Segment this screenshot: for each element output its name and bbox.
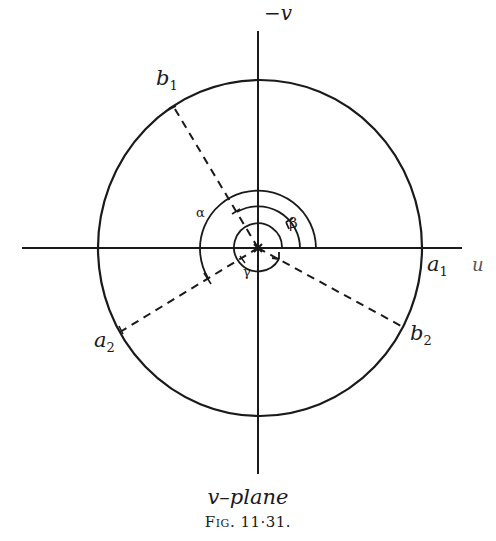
point-label-b2: b2 bbox=[410, 323, 432, 347]
b1-sub: 1 bbox=[169, 78, 177, 93]
a2-base: a bbox=[94, 328, 107, 352]
a2-sub: 2 bbox=[107, 340, 115, 355]
alpha-arc-end-tick bbox=[204, 273, 211, 284]
b2-sub: 2 bbox=[423, 333, 431, 348]
point-label-a2: a2 bbox=[94, 330, 115, 354]
figure-caption: Fig. 11·31. bbox=[0, 513, 496, 531]
angle-label-beta: β bbox=[289, 216, 298, 231]
angle-label-gamma: γ bbox=[243, 265, 251, 278]
horizontal-axis-label: u bbox=[472, 256, 484, 274]
angle-label-alpha: α bbox=[196, 206, 205, 219]
a1-base: a bbox=[427, 252, 440, 276]
a1-sub: 1 bbox=[440, 264, 448, 279]
b2-base: b bbox=[410, 321, 423, 345]
dashed-radius-b2 bbox=[258, 248, 403, 327]
point-label-a1: a1 bbox=[427, 254, 448, 278]
b1-base: b bbox=[156, 66, 169, 90]
plane-caption: v–plane bbox=[0, 485, 496, 509]
point-label-b1: b1 bbox=[156, 68, 178, 92]
vertical-axis-label: −v bbox=[264, 3, 292, 23]
